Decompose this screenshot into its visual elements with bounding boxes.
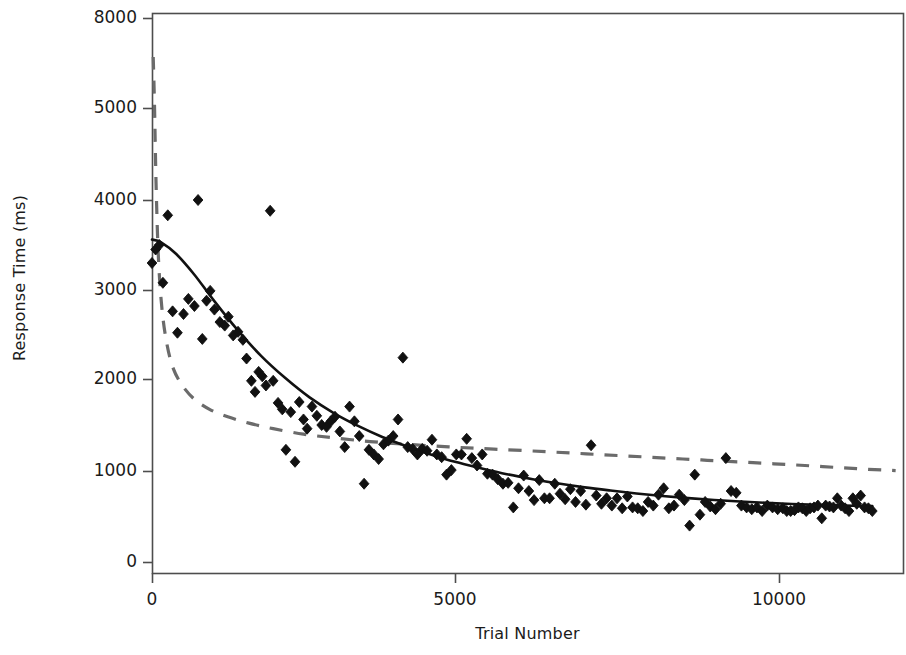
scatter-points (147, 195, 877, 532)
y-axis-title: Response Time (ms) (10, 0, 29, 558)
x-tick-label: 10000 (729, 589, 829, 609)
y-tick-label: 1000 (94, 460, 137, 480)
y-tick-label: 8000 (94, 7, 137, 27)
y-tick-label: 4000 (94, 189, 137, 209)
x-axis-title: Trial Number (152, 624, 903, 643)
y-tick-label: 0 (126, 551, 137, 571)
x-tick-label: 0 (102, 589, 202, 609)
y-tick-label: 2000 (94, 368, 137, 388)
y-tick-label: 3000 (94, 279, 137, 299)
x-tick-label: 5000 (405, 589, 505, 609)
dashed-fit-curve (153, 57, 895, 471)
y-tick-label: 5000 (94, 97, 137, 117)
chart-figure: Response Time (ms) Trial Number 80005000… (0, 0, 906, 655)
